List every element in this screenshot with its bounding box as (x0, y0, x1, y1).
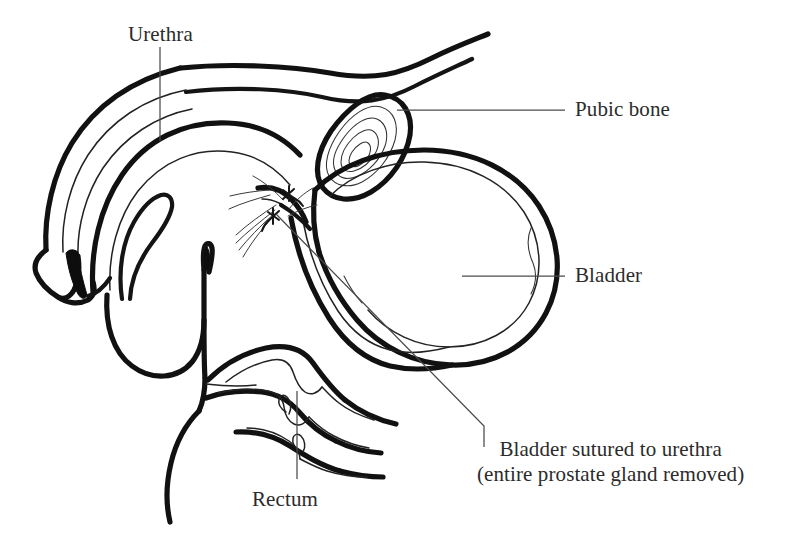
label-rectum: Rectum (252, 487, 318, 512)
caption-line-2: (entire prostate gland removed) (477, 462, 744, 487)
abdominal-wall (181, 34, 488, 101)
pubic-bone (317, 95, 410, 199)
label-bladder: Bladder (575, 263, 642, 288)
corpus-cavernosum (121, 195, 173, 299)
leader-anastomosis (276, 214, 484, 447)
rectum (206, 347, 396, 477)
caption-line-1: Bladder sutured to urethra (477, 437, 744, 462)
perineum-contour (167, 384, 256, 522)
bladder (291, 150, 557, 369)
anatomical-diagram-figure: Urethra Pubic bone Bladder Rectum Bladde… (0, 0, 786, 533)
label-urethra: Urethra (128, 22, 193, 47)
label-pubic-bone: Pubic bone (575, 97, 670, 122)
penis-shaft (46, 68, 300, 292)
label-anastomosis-caption: Bladder sutured to urethra (entire prost… (477, 437, 744, 487)
